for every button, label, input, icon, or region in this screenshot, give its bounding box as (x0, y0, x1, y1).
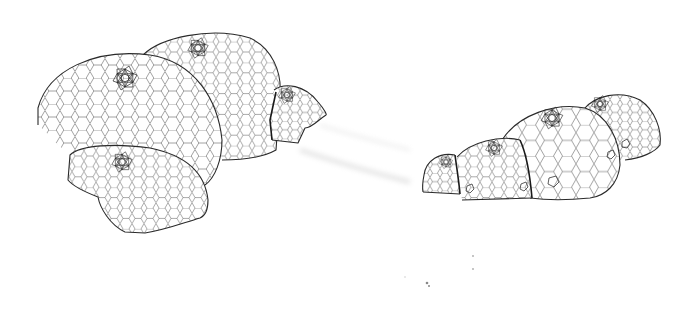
stray-dots (404, 255, 474, 287)
dome-illustration: Line drawing of two clusters of geodesic… (0, 0, 696, 333)
dome-drawing-canvas (0, 0, 696, 333)
right-dome-cluster (420, 88, 665, 203)
dome-c (268, 80, 330, 146)
left-dome-cluster (35, 25, 330, 236)
faint-smudge (300, 125, 410, 182)
